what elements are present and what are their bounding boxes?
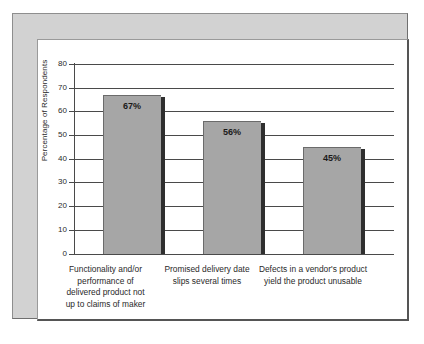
bar-value-label-2: 56% [203, 127, 261, 137]
y-tick-label-50: 50 [58, 131, 67, 139]
bar-value-label-1: 67% [103, 101, 161, 111]
y-tick-label-20: 20 [58, 202, 67, 210]
x-category-label-3-line-2: yield the product unusable [250, 276, 376, 288]
gridline-80 [75, 64, 394, 65]
x-category-label-1: Functionality and/or performance of deli… [48, 264, 163, 310]
x-category-label-2: Promised delivery date slips several tim… [151, 264, 263, 287]
x-category-label-2-line-1: Promised delivery date [151, 264, 263, 276]
gridline-70 [75, 88, 394, 89]
x-category-label-3-line-1: Defects in a vendor's product [250, 264, 376, 276]
y-tick-label-60: 60 [58, 107, 67, 115]
y-tick-label-40: 40 [58, 155, 67, 163]
bar-value-label-3: 45% [303, 153, 361, 163]
y-tick-label-70: 70 [58, 84, 67, 92]
bar-shadow-3 [361, 149, 365, 254]
bar-shadow-2 [261, 123, 265, 254]
bar-3[interactable] [303, 147, 361, 254]
y-tick-label-30: 30 [58, 178, 67, 186]
x-category-label-1-line-4: up to claims of maker [48, 299, 163, 311]
y-tick-label-80: 80 [58, 60, 67, 68]
x-category-label-3: Defects in a vendor's product yield the … [250, 264, 376, 287]
x-category-label-2-line-2: slips several times [151, 276, 263, 288]
x-category-label-1-line-2: performance of [48, 276, 163, 288]
x-axis-line [74, 254, 394, 255]
bar-2[interactable] [203, 121, 261, 254]
figure-frame: Percentage of Respondents 80 70 60 50 40… [12, 13, 408, 319]
y-tick-label-0: 0 [63, 250, 67, 258]
x-category-label-1-line-1: Functionality and/or [48, 264, 163, 276]
bar-1[interactable] [103, 95, 161, 254]
bar-shadow-1 [161, 97, 165, 254]
x-category-label-1-line-3: delivered product not [48, 287, 163, 299]
plot-area: 67% 56% 45% [75, 64, 394, 254]
y-tick-label-10: 10 [58, 226, 67, 234]
